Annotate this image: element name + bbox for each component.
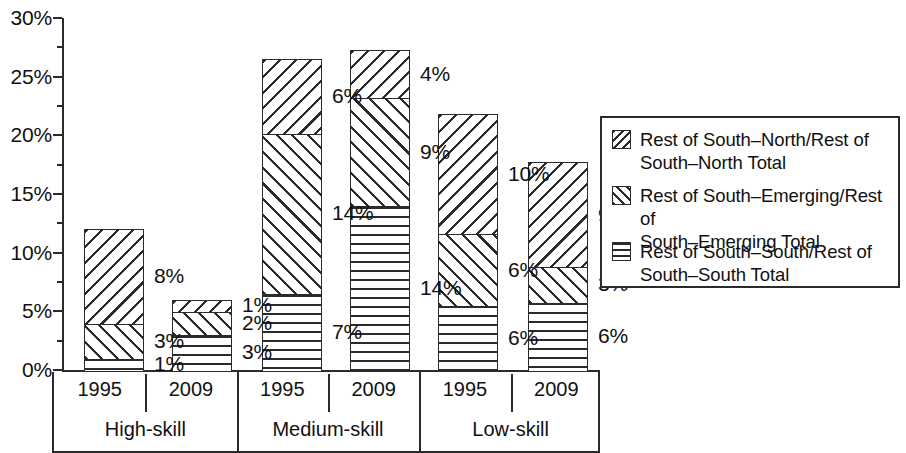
x-axis-group-divider — [419, 372, 421, 453]
bar-segment-north[interactable] — [262, 59, 322, 135]
data-label: 7% — [332, 320, 362, 344]
bar-high-1995[interactable] — [84, 229, 144, 370]
x-axis-year-label: 2009 — [511, 378, 602, 401]
bar-segment-emerging[interactable] — [350, 98, 410, 208]
y-axis-tick-major — [53, 310, 62, 312]
y-axis-tick-label: 5% — [22, 299, 52, 323]
data-label: 6% — [508, 326, 538, 350]
y-axis-tick-major — [53, 134, 62, 136]
legend-label-line1: Rest of South–Emerging/Rest of — [640, 184, 892, 230]
x-axis-year-label: 1995 — [237, 378, 328, 401]
y-axis-tick-minor — [57, 222, 62, 224]
y-axis-tick-minor — [57, 105, 62, 107]
data-label: 14% — [420, 276, 461, 300]
y-axis-tick-minor — [57, 164, 62, 166]
data-label: 14% — [332, 201, 373, 225]
legend-swatch-icon — [612, 242, 631, 261]
y-axis-tick-label: 15% — [11, 182, 52, 206]
x-axis-group-label: High-skill — [54, 418, 237, 441]
y-axis-tick-label: 30% — [11, 6, 52, 30]
y-axis-tick-label: 20% — [11, 123, 52, 147]
x-axis-group-divider — [237, 372, 239, 453]
y-axis-tick-minor — [57, 46, 62, 48]
y-axis-tick-minor — [57, 281, 62, 283]
data-label: 1% — [242, 293, 272, 317]
legend-label-line2: South–South Total — [640, 263, 872, 286]
data-label: 6% — [508, 258, 538, 282]
y-axis-tick-minor — [57, 340, 62, 342]
data-label: 4% — [420, 62, 450, 86]
data-label: 10% — [508, 162, 549, 186]
x-axis-year-label: 1995 — [54, 378, 145, 401]
y-axis-tick-major — [53, 17, 62, 19]
y-axis-tick-major — [53, 252, 62, 254]
y-axis-tick-major — [53, 76, 62, 78]
x-axis-label-table: 199520091995200919952009High-skillMedium… — [52, 372, 600, 453]
x-axis-year-label: 1995 — [419, 378, 510, 401]
x-axis-group-label: Medium-skill — [237, 418, 420, 441]
bar-segment-south[interactable] — [350, 206, 410, 372]
bar-segment-south[interactable] — [438, 305, 498, 371]
legend-label: Rest of South–South/Rest ofSouth–South T… — [640, 240, 872, 286]
y-axis-tick-label: 25% — [11, 65, 52, 89]
data-label: 9% — [420, 140, 450, 164]
bar-segment-south[interactable] — [84, 358, 144, 371]
x-axis-year-label: 2009 — [328, 378, 419, 401]
x-axis-year-divider — [511, 374, 513, 412]
legend-item[interactable]: Rest of South–Emerging/Rest ofSouth–Emer… — [612, 184, 892, 232]
legend-label-line1: Rest of South–North/Rest of — [640, 128, 869, 151]
y-axis-tick-major — [53, 369, 62, 371]
y-axis-tick-label: 10% — [11, 241, 52, 265]
x-axis-group-label: Low-skill — [419, 418, 602, 441]
bar-segment-north[interactable] — [438, 114, 498, 235]
data-label: 3% — [242, 340, 272, 364]
bar-segment-north[interactable] — [84, 229, 144, 324]
legend-label-line2: South–North Total — [640, 151, 869, 174]
x-axis-year-label: 2009 — [145, 378, 236, 401]
data-label: 8% — [154, 264, 184, 288]
data-label: 6% — [332, 84, 362, 108]
legend-label-line1: Rest of South–South/Rest of — [640, 240, 872, 263]
bar-segment-emerging[interactable] — [84, 323, 144, 360]
x-axis-year-divider — [328, 374, 330, 412]
legend-swatch-icon — [612, 130, 631, 149]
y-axis-tick-major — [53, 193, 62, 195]
legend-item[interactable]: Rest of South–South/Rest ofSouth–South T… — [612, 240, 892, 288]
y-axis-line — [62, 18, 64, 372]
y-axis-tick-label: 0% — [22, 358, 52, 382]
data-label: 6% — [598, 324, 628, 348]
x-axis-year-divider — [145, 374, 147, 412]
legend-swatch-icon — [612, 186, 631, 205]
stacked-bar-chart: 0%5%10%15%20%25%30% 1%3%8%3%2%1%7%14%6%1… — [0, 0, 906, 453]
bar-segment-emerging[interactable] — [262, 133, 322, 295]
legend-item[interactable]: Rest of South–North/Rest ofSouth–North T… — [612, 128, 892, 176]
bar-segment-north[interactable] — [172, 300, 232, 313]
data-label: 3% — [154, 329, 184, 353]
legend-label: Rest of South–North/Rest ofSouth–North T… — [640, 128, 869, 174]
chart-legend: Rest of South–North/Rest ofSouth–North T… — [600, 116, 900, 288]
